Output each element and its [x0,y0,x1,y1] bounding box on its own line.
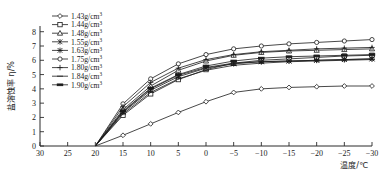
data-point-marker-square [58,22,62,26]
x-axis-tick-label: −20 [310,149,323,158]
y-axis-tick-label: 8 [32,28,36,37]
data-point-marker-circle [370,37,374,41]
data-point-marker-plus [57,65,62,70]
legend-label: 1.84g/cm3 [71,71,102,81]
legend-label: 1.43g/cm3 [71,11,102,21]
data-point-marker-dash-solid [259,57,265,59]
data-point-marker-circle [259,44,263,48]
x-axis-title: 温度/℃ [340,160,368,170]
data-point-marker-diamond [148,121,153,126]
data-point-marker-star-solid [57,48,63,54]
data-point-marker-star-solid [314,57,320,63]
data-point-marker-diamond [370,84,375,89]
y-axis-tick-label: 2 [32,113,36,122]
y-axis-tick-label: 4 [32,85,36,94]
legend-label-superscript: 3 [99,46,102,52]
legend-item: 1.44g/cm3 [52,20,102,30]
data-point-marker-circle [176,62,180,66]
y-axis-title: 盐溶蚀率 η/% [6,61,16,111]
series-line [95,60,372,146]
data-point-marker-diamond [342,84,347,89]
data-point-marker-diamond [58,14,63,19]
data-point-marker-dash-solid [203,65,209,67]
x-axis-tick-label: −5 [229,149,238,158]
data-point-marker-dash-solid [57,84,63,86]
data-point-marker-dash-solid [369,54,375,56]
chart-figure: 302520151050−5−10−15−20−25−30012345678温度… [0,0,386,174]
legend-label-superscript: 3 [99,28,102,34]
legend-label: 1.48g/cm3 [71,28,102,38]
x-axis-tick-label: −30 [366,149,379,158]
data-point-marker-diamond [259,86,264,91]
legend-label-superscript: 3 [99,80,102,86]
data-point-marker-dash-solid [314,55,320,57]
legend-item: 1.48g/cm3 [52,28,102,38]
data-point-marker-dash-solid [286,56,292,58]
legend-label: 1.90g/cm3 [71,80,102,90]
data-point-marker-diamond [121,133,126,138]
x-axis-tick-label: 30 [36,149,44,158]
data-point-marker-diamond [204,99,209,104]
series-line [95,59,372,146]
legend-label: 1.75g/cm3 [71,54,102,64]
salt-dissolution-rate-line-chart: 302520151050−5−10−15−20−25−30012345678温度… [0,0,386,174]
y-axis-tick-label: 6 [32,56,36,65]
data-point-marker-star-solid [286,58,292,64]
legend-label-superscript: 3 [99,63,102,69]
plot-area [95,37,375,146]
data-point-marker-star-solid [369,56,375,62]
legend-label: 1.63g/cm3 [71,46,102,56]
legend-label-superscript: 3 [99,54,102,60]
x-axis-tick-label: 20 [91,149,99,158]
legend-label-superscript: 3 [99,11,102,17]
data-point-marker-diamond [287,85,292,90]
data-point-marker-diamond [231,90,236,95]
legend-item: 1.75g/cm3 [52,54,102,64]
data-point-marker-diamond [176,110,181,115]
data-point-marker-circle [232,47,236,51]
legend-label: 1.80g/cm3 [71,63,102,73]
data-point-marker-circle [287,42,291,46]
data-point-marker-circle [342,39,346,43]
legend-item: 1.43g/cm3 [52,11,102,21]
y-axis-tick-label: 1 [32,128,36,137]
legend-label: 1.55g/cm3 [71,37,102,47]
data-point-marker-diamond [314,84,319,89]
x-axis-tick-label: −10 [255,149,268,158]
legend-item: 1.84g/cm3 [52,71,102,81]
data-series [95,60,375,146]
y-axis-tick-label: 0 [32,142,36,151]
data-point-marker-circle [204,52,208,56]
chart-legend: 1.43g/cm31.44g/cm31.48g/cm31.55g/cm31.63… [52,11,102,89]
y-axis-tick-label: 7 [32,42,36,51]
x-axis-tick-label: −15 [283,149,296,158]
data-point-marker-dash-solid [342,54,348,56]
axes-layer: 302520151050−5−10−15−20−25−30012345678温度… [6,26,378,170]
data-point-marker-dash-solid [176,74,182,76]
x-axis-tick-label: 0 [204,149,208,158]
x-axis-tick-label: 5 [176,149,180,158]
data-point-marker-circle [315,40,319,44]
data-series [95,84,374,146]
y-axis-tick-label: 5 [32,71,36,80]
legend-item: 1.80g/cm3 [52,63,102,73]
data-point-marker-dash-solid [120,110,126,112]
legend-item: 1.90g/cm3 [52,80,102,90]
series-line [95,59,372,146]
legend-label-superscript: 3 [99,20,102,26]
x-axis-tick-label: 15 [119,149,127,158]
data-series [95,56,374,146]
legend-item: 1.63g/cm3 [52,46,102,56]
legend-label-superscript: 3 [99,71,102,77]
legend-label: 1.44g/cm3 [71,20,102,30]
x-axis-tick-label: 10 [147,149,155,158]
x-axis-tick-label: −25 [338,149,351,158]
x-axis-tick-label: 25 [64,149,72,158]
data-point-marker-circle [58,57,62,61]
legend-item: 1.55g/cm3 [52,37,102,47]
y-axis-tick-label: 3 [32,99,36,108]
data-point-marker-star-solid [342,57,348,63]
legend-label-superscript: 3 [99,37,102,43]
data-point-marker-dash-solid [231,60,237,62]
data-point-marker-dash-solid [148,87,154,89]
